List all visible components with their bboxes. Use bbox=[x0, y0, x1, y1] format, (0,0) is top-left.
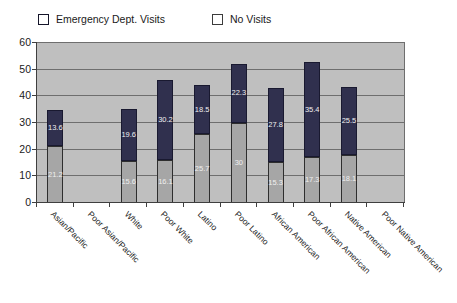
y-axis-label-50: 50 bbox=[0, 63, 31, 75]
y-axis-label-20: 20 bbox=[0, 143, 31, 155]
legend-swatch-no-visits bbox=[212, 14, 223, 25]
x-axis-tick-7 bbox=[293, 203, 294, 207]
y-axis-tick-30 bbox=[32, 122, 36, 123]
bar-data-label: 18.5 bbox=[194, 86, 210, 133]
bar-segment-emergency-visits: 19.6 bbox=[121, 109, 137, 161]
legend-label-no-visits: No Visits bbox=[230, 13, 271, 26]
bar-segment-no-visits: 15.6 bbox=[121, 161, 137, 203]
y-axis-tick-10 bbox=[32, 175, 36, 176]
y-axis-label-10: 10 bbox=[0, 169, 31, 181]
x-axis bbox=[36, 202, 405, 203]
bar-segment-emergency-visits: 13.6 bbox=[47, 110, 63, 146]
bar-data-label: 25.7 bbox=[194, 135, 210, 202]
stacked-bar-chart: Emergency Dept. Visits No Visits 21.213.… bbox=[0, 0, 457, 303]
bar-segment-no-visits: 18.1 bbox=[341, 155, 357, 203]
bar-segment-emergency-visits: 35.4 bbox=[304, 62, 320, 156]
x-axis-tick-4 bbox=[183, 203, 184, 207]
x-axis-category-poor-african-american: Poor African American bbox=[306, 209, 373, 276]
legend-entry-emergency-visits: Emergency Dept. Visits bbox=[38, 13, 165, 26]
y-axis-tick-60 bbox=[32, 42, 36, 43]
y-axis-label-60: 60 bbox=[0, 36, 31, 48]
x-axis-tick-0 bbox=[36, 203, 37, 207]
bar-data-label: 19.6 bbox=[121, 110, 137, 160]
x-axis-tick-3 bbox=[146, 203, 147, 207]
x-axis-category-white: White bbox=[123, 209, 145, 231]
bar-segment-emergency-visits: 22.3 bbox=[231, 64, 247, 123]
bar-data-label: 35.4 bbox=[304, 63, 320, 155]
bar-data-label: 22.3 bbox=[231, 65, 247, 122]
bar-segment-emergency-visits: 27.8 bbox=[268, 88, 284, 162]
gridline-50 bbox=[37, 69, 404, 70]
y-axis-label-0: 0 bbox=[0, 196, 31, 208]
legend-swatch-emergency-visits bbox=[38, 14, 49, 25]
bar-data-label: 13.6 bbox=[47, 111, 63, 145]
y-axis-label-40: 40 bbox=[0, 89, 31, 101]
bar-data-label: 30.2 bbox=[157, 81, 173, 160]
x-axis-tick-1 bbox=[73, 203, 74, 207]
x-axis-category-asian-pacific: Asian/Pacific bbox=[49, 209, 90, 250]
bar-segment-no-visits: 25.7 bbox=[194, 134, 210, 203]
x-axis-tick-9 bbox=[366, 203, 367, 207]
bar-segment-no-visits: 17.3 bbox=[304, 157, 320, 203]
bar-segment-emergency-visits: 18.5 bbox=[194, 85, 210, 134]
x-axis-category-poor-native-american: Poor Native American bbox=[380, 209, 445, 274]
x-axis-tick-2 bbox=[109, 203, 110, 207]
bar-data-label: 21.2 bbox=[47, 147, 63, 202]
y-axis-tick-20 bbox=[32, 149, 36, 150]
x-axis-category-poor-white: Poor White bbox=[159, 209, 196, 246]
y-axis-tick-40 bbox=[32, 95, 36, 96]
y-axis bbox=[36, 42, 37, 203]
y-axis-tick-50 bbox=[32, 69, 36, 70]
bar-data-label: 27.8 bbox=[268, 89, 284, 161]
bar-data-label: 15.3 bbox=[268, 163, 284, 202]
bar-segment-no-visits: 30 bbox=[231, 123, 247, 203]
legend-entry-no-visits: No Visits bbox=[212, 13, 271, 26]
x-axis-category-latino: Latino bbox=[196, 209, 219, 232]
bar-segment-emergency-visits: 30.2 bbox=[157, 80, 173, 161]
bar-segment-no-visits: 16.1 bbox=[157, 160, 173, 203]
bar-data-label: 30 bbox=[231, 124, 247, 202]
bar-segment-emergency-visits: 25.5 bbox=[341, 87, 357, 155]
bar-data-label: 18.1 bbox=[341, 156, 357, 202]
bar-segment-no-visits: 15.3 bbox=[268, 162, 284, 203]
bar-data-label: 15.6 bbox=[121, 162, 137, 202]
bar-segment-no-visits: 21.2 bbox=[47, 146, 63, 203]
bar-data-label: 17.3 bbox=[304, 158, 320, 202]
x-axis-tick-10 bbox=[403, 203, 404, 207]
x-axis-tick-5 bbox=[220, 203, 221, 207]
bar-data-label: 25.5 bbox=[341, 88, 357, 154]
x-axis-tick-6 bbox=[256, 203, 257, 207]
legend-label-emergency-visits: Emergency Dept. Visits bbox=[56, 13, 165, 26]
x-axis-category-poor-latino: Poor Latino bbox=[233, 209, 271, 247]
y-axis-label-30: 30 bbox=[0, 116, 31, 128]
x-axis-tick-8 bbox=[330, 203, 331, 207]
plot-area: 21.213.615.619.616.130.225.718.53022.315… bbox=[37, 42, 405, 203]
bar-data-label: 16.1 bbox=[157, 161, 173, 202]
